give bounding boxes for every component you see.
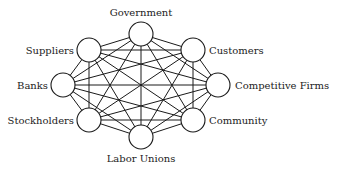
label-suppliers: Suppliers: [26, 45, 74, 56]
node-competitive-firms: [206, 73, 230, 97]
node-suppliers: [77, 38, 101, 62]
node-community: [181, 108, 205, 132]
node-government: [129, 22, 153, 46]
label-community: Community: [209, 115, 268, 126]
node-customers: [181, 38, 205, 62]
stakeholder-network-diagram: GovernmentCustomersCompetitive FirmsComm…: [0, 0, 340, 173]
label-government: Government: [110, 7, 173, 18]
label-banks: Banks: [17, 80, 48, 91]
label-customers: Customers: [209, 45, 264, 56]
node-stockholders: [77, 108, 101, 132]
node-labor-unions: [129, 125, 153, 149]
label-labor-unions: Labor Unions: [107, 153, 176, 164]
node-banks: [51, 73, 75, 97]
label-stockholders: Stockholders: [8, 115, 74, 126]
label-competitive-firms: Competitive Firms: [235, 80, 329, 91]
